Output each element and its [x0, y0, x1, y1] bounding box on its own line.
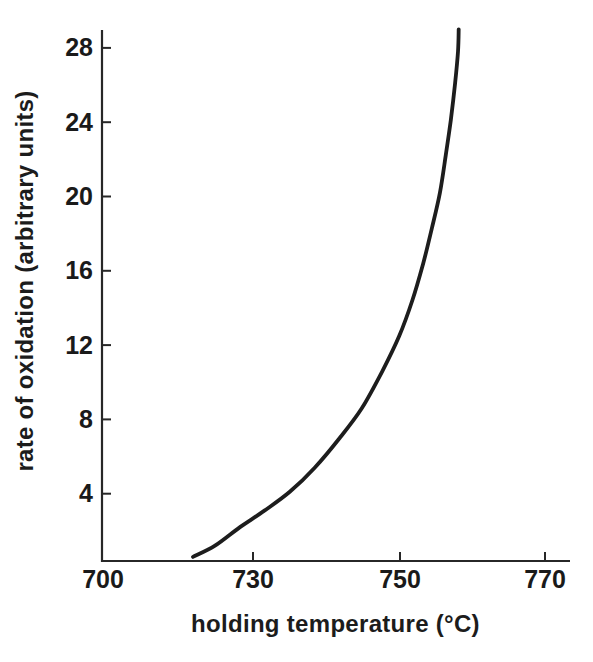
chart-plot-area: 481216202428700730750770: [0, 0, 593, 662]
y-tick-label-12: 12: [65, 331, 93, 359]
x-tick-label-750: 750: [379, 565, 421, 593]
x-axis-label: holding temperature (°C): [101, 610, 570, 638]
y-tick-label-20: 20: [65, 182, 93, 210]
oxidation-rate-figure: 481216202428700730750770 rate of oxidati…: [0, 0, 593, 662]
y-tick-label-4: 4: [79, 479, 93, 507]
x-tick-label-730: 730: [232, 565, 274, 593]
y-axis-label: rate of oxidation (arbitrary units): [11, 90, 39, 471]
x-tick-label-700: 700: [82, 565, 124, 593]
oxidation-rate-curve: [193, 29, 459, 557]
y-tick-label-16: 16: [65, 256, 93, 284]
y-tick-label-8: 8: [79, 405, 93, 433]
axis-lines: [102, 30, 570, 561]
x-tick-label-770: 770: [524, 565, 566, 593]
y-tick-label-28: 28: [65, 33, 93, 61]
y-tick-label-24: 24: [65, 108, 93, 136]
